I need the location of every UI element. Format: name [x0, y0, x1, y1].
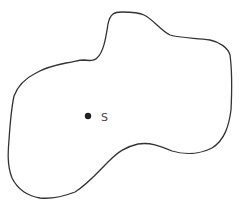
- region-diagram: S: [0, 0, 242, 208]
- point-label: S: [101, 111, 108, 124]
- point-marker: [85, 113, 91, 119]
- region-outline: [8, 12, 231, 198]
